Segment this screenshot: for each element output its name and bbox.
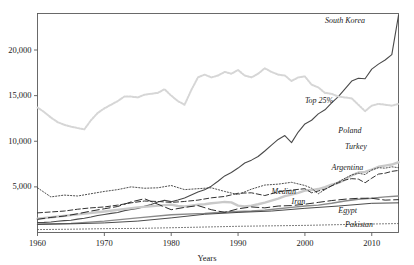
x-axis-tick-label: 1980 — [158, 238, 184, 248]
x-axis-tick-label: 1990 — [225, 238, 251, 248]
y-axis-tick-label: 10,000 — [8, 136, 31, 146]
series-label-south-korea: South Korea — [325, 16, 365, 25]
x-axis-tick-label: 2010 — [359, 238, 385, 248]
series-line-top-25 — [38, 68, 399, 129]
chart-figure: 5,00010,00015,00020,00019601970198019902… — [0, 0, 414, 265]
x-axis-tick-label: 2000 — [292, 238, 318, 248]
series-label-argentina: Argentina — [332, 163, 364, 172]
x-axis-tick-label: 1970 — [91, 238, 117, 248]
series-label-turkey: Turkey — [345, 142, 367, 151]
series-label-iran: Iran — [292, 197, 306, 206]
series-label-top-25: Top 25% — [305, 96, 333, 105]
series-label-median: Median — [272, 187, 296, 196]
series-label-poland: Poland — [338, 126, 361, 135]
series-label-egypt: Egypt — [338, 206, 357, 215]
x-axis-title: Years — [0, 253, 414, 263]
series-label-pakistan: Pakistan — [345, 220, 373, 229]
y-axis-tick-label: 20,000 — [8, 45, 31, 55]
y-axis-tick-label: 15,000 — [8, 90, 31, 100]
x-axis-tick-label: 1960 — [25, 238, 51, 248]
y-axis-tick-label: 5,000 — [12, 181, 31, 191]
